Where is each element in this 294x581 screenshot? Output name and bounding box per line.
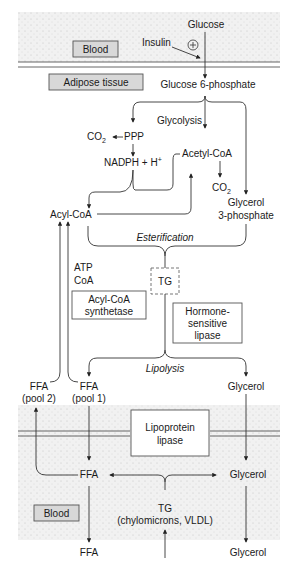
ffa-pool2-label: (pool 2) [22,393,56,404]
svg-text:Blood: Blood [83,44,109,55]
adipose-tissue-label: Adipose tissue [49,74,143,90]
glucose-node: Glucose [188,19,225,30]
ffa-output-node: FFA [80,547,99,558]
tg-blood-node: TG [158,503,172,514]
g6p-branches [133,96,246,194]
co2-acetyl-node: CO2 [212,182,231,195]
tg-blood-label: (chylomicrons, VLDL) [117,515,213,526]
glycerol-blood-node: Glycerol [230,469,267,480]
acyl-coa-synthetase-box: Acyl-CoA synthetase [72,291,146,319]
svg-text:TG: TG [158,276,172,287]
svg-text:Acyl-CoA: Acyl-CoA [88,294,130,305]
ffa-pool1-node: FFA [80,381,99,392]
svg-text:Blood: Blood [44,508,70,519]
ffa-pool2-node: FFA [30,381,49,392]
svg-text:lipase: lipase [157,435,184,446]
co2-ppp-node: CO2 [87,131,106,144]
acyl-to-acetyl-arrow [97,174,191,214]
esterification-label: Esterification [136,232,194,243]
blood-label-top: Blood [73,41,118,57]
acetyl-coa-node: Acetyl-CoA [182,148,232,159]
nadph-node: NADPH + H+ [104,156,162,168]
lipoprotein-lipase-box: Lipoprotein lipase [131,410,209,456]
ppp-node: PPP [124,131,144,142]
insulin-node: Insulin [142,37,171,48]
ffa-pool2-to-acyl-arrow [50,222,60,382]
glycerol-3-phosphate-node: Glycerol [228,197,265,208]
tg-tissue-node: TG [151,268,179,294]
ffa-pool1-label: (pool 1) [72,393,106,404]
lipid-metabolism-diagram: Blood Adipose tissue Blood Glucose Insul… [0,0,294,581]
glycerol-output-node: Glycerol [230,547,267,558]
svg-text:Lipoprotein: Lipoprotein [145,422,194,433]
glycolysis-label: Glycolysis [157,115,202,126]
glucose-6-phosphate-node: Glucose 6-phosphate [160,79,256,90]
hormone-sensitive-lipase-box: Hormone- sensitive lipase [173,303,242,343]
lipolysis-label: Lipolysis [146,363,184,374]
svg-text:Adipose tissue: Adipose tissue [63,77,128,88]
glycerol-3-phosphate-line2: 3-phosphate [218,210,274,221]
glycerol-tissue-node: Glycerol [228,381,265,392]
svg-text:lipase: lipase [194,330,221,341]
blood-label-bottom: Blood [34,505,79,521]
svg-text:sensitive: sensitive [188,318,227,329]
svg-text:Hormone-: Hormone- [185,306,229,317]
atp-label: ATP [74,262,93,273]
ffa-blood-node: FFA [80,469,99,480]
membrane-top [18,62,280,67]
coa-label: CoA [74,275,94,286]
acyl-coa-node: Acyl-CoA [50,209,92,220]
svg-text:synthetase: synthetase [85,306,134,317]
